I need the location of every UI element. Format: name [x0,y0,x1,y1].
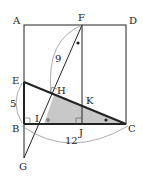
label-j: J [78,127,83,138]
measure-eb: 5 [10,98,16,109]
label-e: E [12,75,19,86]
label-g: G [19,161,27,172]
label-i: I [35,113,39,124]
measure-fh: 9 [55,53,61,64]
arc-eb [16,83,22,123]
label-a: A [12,15,21,26]
label-k: K [86,95,94,106]
geometry-diagram: A F D E H K B I J C G 9 5 12 [0,0,143,181]
angle-dot-c [104,118,107,121]
label-f: F [78,12,85,23]
label-h: H [57,85,66,96]
label-b: B [12,123,19,134]
angle-dot-f [76,41,79,44]
label-d: D [129,15,137,26]
measure-bc: 12 [65,135,78,146]
label-c: C [128,123,136,134]
